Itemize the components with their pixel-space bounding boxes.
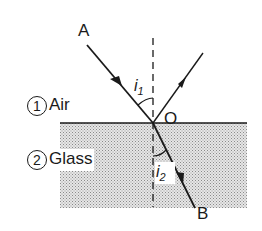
angle-i2-subscript: 2 [160,171,166,183]
refraction-diagram: A O B i1 i2 1Air 2Glass [0,0,262,231]
medium-air-label: 1Air [27,95,72,117]
point-a-label: A [78,22,89,39]
angle-arc-i1 [138,98,153,105]
angle-i2-label: i2 [156,164,166,183]
reflected-ray [153,53,203,123]
point-o-label: O [164,110,177,127]
angle-i1-label: i1 [134,78,144,97]
angle-i1-subscript: 1 [138,85,144,97]
medium-glass-label: 2Glass [27,149,94,171]
medium-2-name: Glass [49,149,92,168]
medium-2-number: 2 [27,150,47,170]
incident-arrow-icon [110,76,122,86]
point-b-label: B [197,205,208,222]
medium-1-number: 1 [27,96,47,116]
medium-1-name: Air [49,95,70,114]
